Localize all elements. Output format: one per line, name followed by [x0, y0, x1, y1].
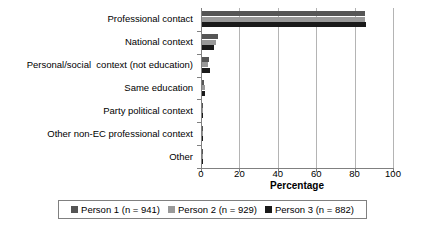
x-axis-tick-label: 40 — [263, 168, 293, 179]
category-label: Personal/social context (not education) — [0, 60, 193, 70]
x-axis-tick-label: 20 — [224, 168, 254, 179]
legend-item[interactable]: Person 2 (n = 929) — [168, 204, 257, 215]
bar[interactable] — [202, 22, 366, 27]
bar-group — [202, 103, 394, 119]
bar[interactable] — [202, 113, 203, 118]
legend-swatch-icon — [265, 206, 272, 213]
bar[interactable] — [202, 131, 203, 136]
legend-label: Person 1 (n = 941) — [81, 204, 160, 215]
category-label: Professional contact — [0, 14, 193, 24]
legend-item[interactable]: Person 1 (n = 941) — [71, 204, 160, 215]
category-label: National context — [0, 37, 193, 47]
bar[interactable] — [202, 34, 218, 39]
y-axis-tick — [197, 122, 201, 123]
bar[interactable] — [202, 45, 214, 50]
bar[interactable] — [202, 108, 203, 113]
category-label: Other — [0, 152, 193, 162]
x-axis-tick-label: 80 — [340, 168, 370, 179]
category-axis-labels: Professional contactNational contextPers… — [0, 8, 197, 168]
bar[interactable] — [202, 68, 210, 73]
chart-container: Professional contactNational contextPers… — [0, 0, 425, 231]
y-axis-tick — [197, 77, 201, 78]
plot-area — [201, 8, 393, 168]
category-label: Party political context — [0, 106, 193, 116]
x-axis-tick-label: 0 — [186, 168, 216, 179]
x-axis-tick-label: 60 — [301, 168, 331, 179]
bar[interactable] — [202, 154, 203, 159]
bar-group — [202, 126, 394, 142]
legend-swatch-icon — [168, 206, 175, 213]
bar[interactable] — [202, 149, 203, 154]
category-label: Same education — [0, 83, 193, 93]
category-label: Other non-EC professional context — [0, 129, 193, 139]
bar[interactable] — [202, 136, 203, 141]
legend-label: Person 2 (n = 929) — [178, 204, 257, 215]
bar[interactable] — [202, 126, 203, 131]
y-axis-tick — [197, 54, 201, 55]
y-axis-tick — [197, 99, 201, 100]
bar[interactable] — [202, 159, 203, 164]
chart-legend: Person 1 (n = 941) Person 2 (n = 929) Pe… — [58, 200, 367, 219]
bar[interactable] — [202, 91, 205, 96]
bar[interactable] — [202, 85, 205, 90]
bar[interactable] — [202, 11, 365, 16]
bar[interactable] — [202, 80, 204, 85]
bar-group — [202, 34, 394, 50]
y-axis-tick — [197, 145, 201, 146]
legend-item[interactable]: Person 3 (n = 882) — [265, 204, 354, 215]
bar[interactable] — [202, 17, 365, 22]
bar[interactable] — [202, 103, 203, 108]
bar[interactable] — [202, 57, 209, 62]
bar[interactable] — [202, 40, 216, 45]
x-axis-title: Percentage — [201, 180, 393, 191]
bar[interactable] — [202, 62, 208, 67]
bar-group — [202, 57, 394, 73]
bar-group — [202, 80, 394, 96]
legend-swatch-icon — [71, 206, 78, 213]
bar-group — [202, 149, 394, 165]
y-axis-tick — [197, 31, 201, 32]
x-axis-tick-label: 100 — [378, 168, 408, 179]
legend-label: Person 3 (n = 882) — [275, 204, 354, 215]
bar-group — [202, 11, 394, 27]
